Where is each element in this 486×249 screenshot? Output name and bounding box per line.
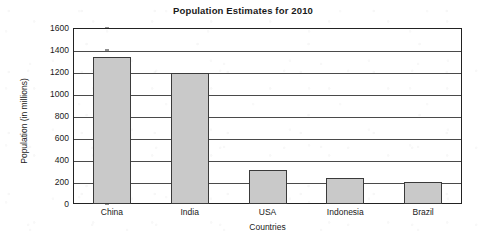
x-tick-label-indonesia: Indonesia bbox=[327, 207, 364, 217]
x-axis-tick-labels: ChinaIndiaUSAIndonesiaBrazil bbox=[73, 207, 462, 221]
bar-indonesia bbox=[326, 178, 364, 204]
bar-india bbox=[171, 73, 209, 204]
y-tick-label: 800 bbox=[55, 111, 69, 121]
bar-usa bbox=[249, 170, 287, 204]
y-axis-title: Population (in millions) bbox=[19, 51, 29, 191]
y-tick-label: 1200 bbox=[50, 67, 69, 77]
bar-china bbox=[93, 57, 131, 204]
y-tick-label: 400 bbox=[55, 155, 69, 165]
bar-brazil bbox=[404, 182, 442, 204]
y-tick-label: 0 bbox=[64, 199, 69, 209]
y-axis-tick-labels: 02004006008001000120014001600 bbox=[36, 28, 69, 204]
bar-chart-figure: Population Estimates for 2010 Population… bbox=[0, 0, 486, 249]
chart-title: Population Estimates for 2010 bbox=[0, 5, 486, 16]
x-tick-label-china: China bbox=[101, 207, 123, 217]
bars-group bbox=[73, 28, 462, 204]
x-tick-label-usa: USA bbox=[259, 207, 276, 217]
x-axis-title: Countries bbox=[73, 222, 462, 232]
y-tick-label: 600 bbox=[55, 133, 69, 143]
x-tick-label-brazil: Brazil bbox=[412, 207, 433, 217]
y-tick-label: 1400 bbox=[50, 45, 69, 55]
y-tick-label: 1000 bbox=[50, 89, 69, 99]
y-tick-label: 1600 bbox=[50, 23, 69, 33]
y-tick-label: 200 bbox=[55, 177, 69, 187]
x-tick-label-india: India bbox=[180, 207, 198, 217]
